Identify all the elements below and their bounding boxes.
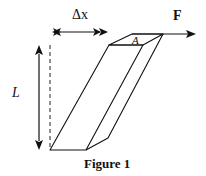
shear-diagram: Δx F A L Figure 1	[0, 0, 206, 176]
force-label: F	[173, 8, 182, 23]
length-label: L	[11, 85, 20, 100]
area-label: A	[131, 34, 139, 46]
delta-x-label: Δx	[72, 7, 88, 22]
length-arrowhead-bottom-icon	[35, 140, 43, 150]
sheared-block	[50, 34, 163, 150]
length-arrowhead-top-icon	[35, 45, 43, 55]
block-side-face	[86, 34, 163, 150]
figure-caption: Figure 1	[84, 156, 130, 171]
